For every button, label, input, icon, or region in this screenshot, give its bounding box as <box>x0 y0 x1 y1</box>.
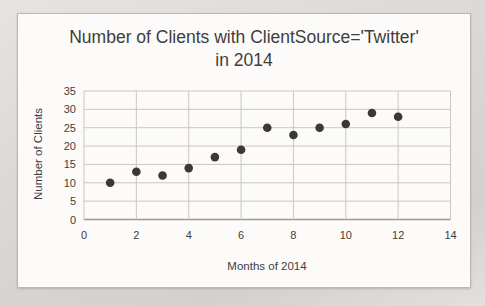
data-point <box>237 145 246 154</box>
chart-area: Number of Clients with ClientSource='Twi… <box>17 13 471 288</box>
y-tick-label: 20 <box>64 140 76 152</box>
y-tick-label: 0 <box>70 214 76 226</box>
data-point <box>394 112 403 121</box>
scanned-chart-image: Number of Clients with ClientSource='Twi… <box>0 0 485 306</box>
y-tick-label: 30 <box>64 103 76 115</box>
data-point <box>158 171 167 180</box>
data-point <box>341 120 350 129</box>
y-tick-label: 10 <box>64 177 76 189</box>
data-point <box>289 131 298 140</box>
data-point <box>132 167 141 176</box>
x-tick-label: 0 <box>81 229 87 241</box>
x-tick-label: 8 <box>290 229 296 241</box>
y-tick-label: 15 <box>64 158 76 170</box>
x-tick-label: 6 <box>238 229 244 241</box>
scatter-plot: 0510152025303502468101214 <box>18 14 472 287</box>
y-tick-label: 5 <box>70 195 76 207</box>
x-axis-title: Months of 2014 <box>84 260 450 272</box>
data-point <box>106 178 115 187</box>
data-point <box>315 123 324 132</box>
x-tick-label: 14 <box>444 229 456 241</box>
data-point <box>263 123 272 132</box>
x-tick-label: 2 <box>133 229 139 241</box>
x-tick-label: 12 <box>392 229 404 241</box>
x-tick-label: 10 <box>340 229 352 241</box>
data-point <box>211 153 220 162</box>
y-tick-label: 25 <box>64 122 76 134</box>
data-point <box>184 164 193 173</box>
data-point <box>368 109 377 118</box>
x-tick-label: 4 <box>186 229 192 241</box>
y-tick-label: 35 <box>64 85 76 97</box>
